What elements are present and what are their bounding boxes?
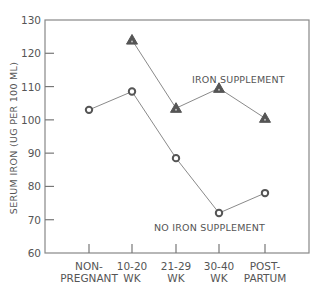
y-tick-label: 70 [28, 214, 41, 226]
x-tick-label: WK [167, 272, 185, 284]
y-tick-label: 120 [21, 47, 41, 59]
x-tick-label: WK [210, 272, 228, 284]
y-tick-label: 80 [28, 180, 41, 192]
x-tick-label: PARTUM [244, 272, 287, 284]
y-tick-label: 110 [21, 81, 41, 93]
x-tick-label: 21-29 [161, 260, 192, 272]
no-iron-supplement-label: NO IRON SUPPLEMENT [154, 222, 265, 233]
series-group [86, 34, 271, 216]
x-tick-label: WK [123, 272, 141, 284]
y-tick-label: 90 [28, 147, 41, 159]
circle-marker [262, 190, 268, 196]
x-tick-label: 10-20 [117, 260, 148, 272]
x-tick-label: POST- [250, 260, 281, 272]
triangle-marker [171, 103, 182, 113]
serum-iron-chart: 60708090100110120130 NON-PREGNANT10-20WK… [0, 0, 318, 294]
circle-marker [86, 107, 92, 113]
iron-supplement-label: IRON SUPPLEMENT [192, 74, 285, 85]
triangle-marker-center [131, 40, 133, 42]
x-tick-label: NON- [75, 260, 103, 272]
circle-marker [129, 88, 135, 94]
plot-frame [45, 20, 309, 253]
triangle-marker-center [218, 89, 220, 91]
triangle-marker [260, 113, 271, 123]
y-tick-label: 130 [21, 14, 41, 26]
triangle-marker-center [175, 109, 177, 111]
y-tick-label: 60 [28, 247, 41, 259]
triangle-marker [127, 34, 138, 44]
circle-marker [216, 210, 222, 216]
circle-marker [173, 155, 179, 161]
x-tick-label: PREGNANT [60, 272, 118, 284]
y-tick-label: 100 [21, 114, 41, 126]
y-axis: 60708090100110120130 [21, 14, 54, 259]
y-axis-title: SERUM IRON (UG PER 100 ML) [8, 62, 19, 214]
x-axis: NON-PREGNANT10-20WK21-29WK30-40WKPOST-PA… [60, 244, 286, 284]
x-tick-label: 30-40 [204, 260, 235, 272]
triangle-marker-center [264, 119, 266, 121]
